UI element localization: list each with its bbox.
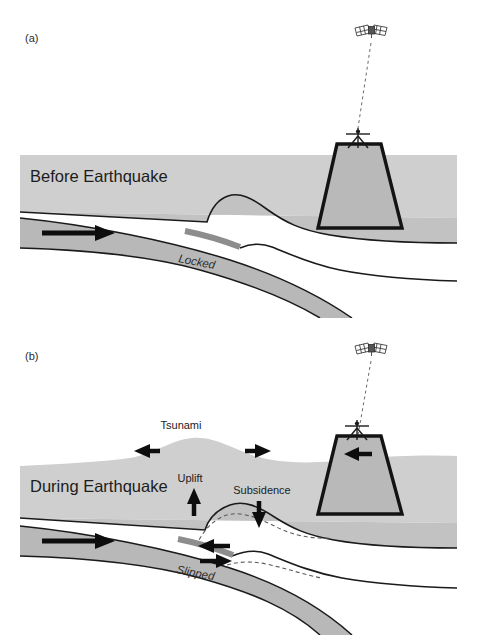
- mountain-island: [318, 436, 402, 514]
- gps-antenna-icon: [346, 128, 370, 148]
- satellite-beam-line: [358, 43, 371, 128]
- figure-root: (a): [0, 0, 477, 635]
- gps-antenna-icon: [345, 420, 369, 440]
- satellite-icon: [355, 25, 387, 38]
- stage-label-before: Before Earthquake: [30, 167, 168, 185]
- panel-before-earthquake: (a): [0, 0, 477, 318]
- tsunami-label: Tsunami: [161, 419, 202, 431]
- panel-letter-b: (b): [25, 350, 38, 362]
- subsidence-label: Subsidence: [233, 484, 291, 496]
- panel-letter-a: (a): [25, 32, 38, 44]
- locked-fault-patch: [185, 231, 240, 247]
- satellite-beam-line: [357, 361, 371, 441]
- satellite-icon: [355, 343, 387, 356]
- stage-label-during: During Earthquake: [30, 477, 168, 495]
- panel-during-earthquake: (b): [0, 318, 477, 635]
- uplift-label: Uplift: [177, 472, 202, 484]
